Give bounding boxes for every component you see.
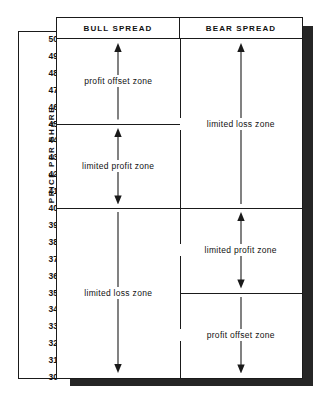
price-tick-30: 30 — [36, 372, 58, 382]
zone-bear-limited-profit: limited profit zone — [180, 208, 303, 293]
zone-label-bear-limited-loss: limited loss zone — [180, 118, 303, 130]
figure-shadow-right — [302, 26, 313, 382]
price-tick-50: 50 — [36, 34, 58, 44]
price-tick-48: 48 — [36, 68, 58, 78]
zone-label-bear-limited-profit: limited profit zone — [180, 244, 303, 256]
price-tick-40: 40 — [36, 203, 58, 213]
zone-label-bull-limited-loss: limited loss zone — [57, 287, 180, 299]
price-tick-37: 37 — [36, 254, 58, 264]
zone-label-bull-profit-offset: profit offset zone — [57, 75, 180, 87]
spread-zones-figure: PRICE PER SHARE 504948474645444342414039… — [0, 0, 326, 406]
zone-bull-profit-offset: profit offset zone — [57, 39, 180, 124]
zone-bear-limited-loss: limited loss zone — [180, 39, 303, 208]
zone-bull-limited-profit: limited profit zone — [57, 124, 180, 209]
price-tick-39: 39 — [36, 220, 58, 230]
price-tick-43: 43 — [36, 152, 58, 162]
price-tick-35: 35 — [36, 288, 58, 298]
price-tick-46: 46 — [36, 102, 58, 112]
price-tick-45: 45 — [36, 119, 58, 129]
price-tick-32: 32 — [36, 338, 58, 348]
price-tick-42: 42 — [36, 169, 58, 179]
zone-label-bear-profit-offset: profit offset zone — [180, 329, 303, 341]
column-header-bear-spread: BEAR SPREAD — [180, 18, 302, 38]
price-tick-36: 36 — [36, 271, 58, 281]
price-tick-38: 38 — [36, 237, 58, 247]
price-tick-49: 49 — [36, 51, 58, 61]
price-tick-31: 31 — [36, 355, 58, 365]
zone-bear-profit-offset: profit offset zone — [180, 293, 303, 378]
price-tick-33: 33 — [36, 321, 58, 331]
zone-bull-limited-loss: limited loss zone — [57, 208, 180, 377]
spread-panel: BULL SPREAD BEAR SPREAD profit offset zo… — [56, 17, 303, 379]
price-tick-47: 47 — [36, 85, 58, 95]
column-header-row: BULL SPREAD BEAR SPREAD — [57, 18, 302, 39]
zone-label-bull-limited-profit: limited profit zone — [57, 160, 180, 172]
price-tick-34: 34 — [36, 304, 58, 314]
price-tick-41: 41 — [36, 186, 58, 196]
price-tick-44: 44 — [36, 135, 58, 145]
column-header-bull-spread: BULL SPREAD — [57, 18, 180, 38]
